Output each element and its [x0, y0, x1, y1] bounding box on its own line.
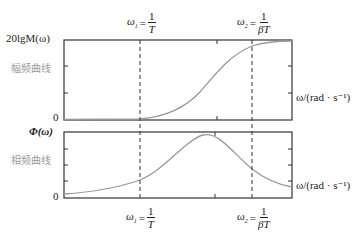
phase-ticks [64, 132, 292, 198]
magnitude-x-axis-label: ω/(rad · s⁻¹) [296, 92, 350, 103]
omega1-symbol: ω1 [127, 15, 138, 29]
magnitude-side-label: 幅频曲线 [11, 64, 51, 74]
omega2-fraction: 1 βT [258, 205, 270, 230]
omega1-symbol: ω1 [126, 210, 137, 224]
omega2-eq: = [250, 17, 256, 29]
phase-side-label: 相频曲线 [11, 156, 51, 166]
magnitude-zero-label: 0 [53, 112, 59, 123]
phase-y-label: Φ(ω) [29, 126, 53, 137]
omega1-eq: = [140, 17, 146, 29]
omega1-fraction: 1 T [148, 10, 156, 35]
phase-panel-frame [64, 132, 292, 198]
phase-zero-label: 0 [53, 191, 59, 202]
phase-x-axis-label: ω/(rad · s⁻¹) [296, 180, 350, 191]
magnitude-y-label: 20lgM(ω) [6, 33, 50, 44]
omega1-eq: = [139, 212, 145, 224]
omega1-top-label: ω1 = 1 T [127, 10, 156, 35]
omega2-eq: = [250, 212, 256, 224]
magnitude-curve [64, 41, 292, 120]
omega1-fraction: 1 T [147, 205, 155, 230]
omega2-bottom-label: ω2 = 1 βT [237, 205, 270, 230]
omega2-symbol: ω2 [237, 15, 248, 29]
phase-curve [64, 135, 292, 194]
omega2-fraction: 1 βT [258, 10, 270, 35]
omega1-bottom-label: ω1 = 1 T [126, 205, 155, 230]
omega2-symbol: ω2 [237, 210, 248, 224]
omega2-top-label: ω2 = 1 βT [237, 10, 270, 35]
magnitude-y-label-text: 20lgM(ω) [6, 32, 50, 44]
